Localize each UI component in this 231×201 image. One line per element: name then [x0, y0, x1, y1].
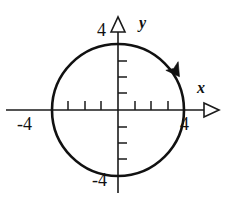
x-axis-arrowhead-icon [204, 103, 219, 117]
x-axis-negative-tick-label: -4 [17, 115, 32, 133]
x-axis-label: x [197, 80, 205, 96]
y-axis-arrowhead-icon [111, 17, 125, 32]
x-axis-positive-tick-label: 4 [180, 115, 189, 133]
plot-canvas [0, 0, 231, 201]
circle-plot-figure: 4 y x 4 -4 -4 [0, 0, 231, 201]
y-axis-top-tick-label: 4 [97, 21, 106, 39]
y-axis-bottom-tick-label: -4 [92, 171, 107, 189]
y-axis-label: y [139, 15, 146, 31]
